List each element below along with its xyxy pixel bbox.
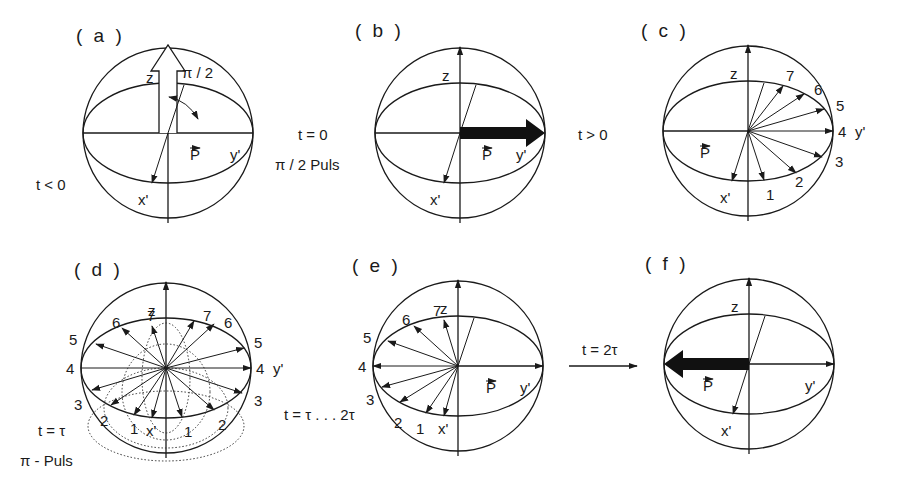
spin-label-4: 4 (838, 123, 846, 140)
magnetization-arrow-solid (460, 119, 545, 147)
spin-labels-left: 1 2 3 4 5 6 7 (66, 307, 155, 437)
svg-text:4: 4 (66, 360, 74, 377)
panel-b: z P y' x' ( b ) (355, 20, 545, 223)
panel-label-e: ( e ) (352, 255, 401, 276)
spin-label-6: 6 (402, 311, 410, 328)
spin-vectors (748, 86, 833, 180)
spin-label-2: 2 (394, 414, 402, 431)
x-axis-arrow (152, 133, 168, 183)
x-label: x' (430, 191, 441, 208)
spin-label-4: 4 (358, 358, 366, 375)
spin-label-1: 1 (766, 186, 774, 203)
t-greater-than-zero: t > 0 (578, 126, 608, 143)
x-label: x' (138, 191, 149, 208)
spin-label-1: 1 (416, 420, 424, 437)
t-tau-to-2tau: t = τ . . . 2τ (284, 406, 355, 423)
angle-label: π / 2 (182, 64, 213, 81)
z-label: z (146, 69, 154, 86)
y-label: y' (273, 360, 284, 377)
panel-f: z P y' x' ( f ) (645, 253, 834, 454)
p-label: P (486, 379, 496, 396)
svg-text:3: 3 (74, 396, 82, 413)
spin-label-3: 3 (366, 391, 374, 408)
svg-text:4: 4 (256, 360, 264, 377)
z-label: z (731, 298, 739, 315)
panel-label-c: ( c ) (641, 20, 689, 41)
spin-label-7: 7 (786, 67, 794, 84)
svg-text:2: 2 (218, 416, 226, 433)
x-axis-back (458, 318, 474, 366)
magnetization-arrow-hollow (151, 45, 185, 133)
svg-text:1: 1 (184, 423, 192, 440)
z-label: z (730, 65, 738, 82)
x-axis-back (749, 316, 765, 364)
panel-e: 1 2 3 4 5 6 7 z P y' x' ( e ) (352, 255, 543, 456)
z-label: z (148, 302, 156, 319)
x-label: x' (721, 422, 732, 439)
spin-label-5: 5 (363, 329, 371, 346)
y-label: y' (855, 123, 866, 140)
p-label: P (703, 377, 713, 394)
z-label: z (440, 300, 448, 317)
svg-text:7: 7 (203, 307, 211, 324)
x-label: x' (438, 420, 449, 437)
x-axis-back (460, 85, 476, 133)
p-label: P (700, 144, 710, 161)
svg-text:6: 6 (224, 314, 232, 331)
t-equals-zero: t = 0 (298, 126, 328, 143)
refocused-magnetization-arrow (664, 350, 749, 378)
svg-text:1: 1 (130, 420, 138, 437)
spin-label-6: 6 (814, 81, 822, 98)
panel-d: 1 2 3 4 5 6 7 1 2 3 4 5 6 7 z y' x' ( d … (66, 259, 284, 461)
spin-label-2: 2 (795, 173, 803, 190)
svg-text:6: 6 (112, 314, 120, 331)
y-label: y' (520, 379, 531, 396)
panel-a: z π / 2 P y' x' ( a ) (76, 25, 253, 223)
t-equals-tau: t = τ (38, 422, 65, 439)
t-equals-2tau: t = 2τ (582, 341, 618, 358)
x-label: x' (146, 422, 157, 439)
x-axis-arrow (444, 133, 460, 183)
spin-echo-figure: z π / 2 P y' x' ( a ) t < 0 z P y' x' ( … (0, 0, 902, 482)
p-label: P (190, 146, 200, 163)
spin-vectors (373, 320, 458, 416)
panel-label-b: ( b ) (355, 20, 404, 41)
panel-c: 1 2 3 4 5 6 7 z P y' x' ( c ) (641, 20, 866, 221)
pi-half-pulse: π / 2 Puls (275, 156, 340, 173)
z-label: z (442, 67, 450, 84)
panel-label-a: ( a ) (76, 25, 125, 46)
p-label: P (482, 146, 492, 163)
spin-label-3: 3 (835, 153, 843, 170)
svg-text:5: 5 (254, 334, 262, 351)
pi-pulse: π - Puls (20, 452, 73, 469)
x-axis-back (748, 83, 764, 131)
spin-label-5: 5 (836, 97, 844, 114)
svg-text:3: 3 (254, 392, 262, 409)
spin-vectors-left (81, 326, 166, 418)
t-less-than-zero: t < 0 (36, 176, 66, 193)
x-axis-arrow (733, 364, 749, 414)
x-axis-arrow (732, 131, 748, 181)
svg-text:5: 5 (69, 331, 77, 348)
svg-text:2: 2 (100, 412, 108, 429)
y-label: y' (516, 146, 527, 163)
panel-label-d: ( d ) (74, 259, 123, 280)
y-label: y' (230, 146, 241, 163)
y-label: y' (805, 377, 816, 394)
panel-label-f: ( f ) (645, 253, 689, 274)
x-label: x' (720, 189, 731, 206)
